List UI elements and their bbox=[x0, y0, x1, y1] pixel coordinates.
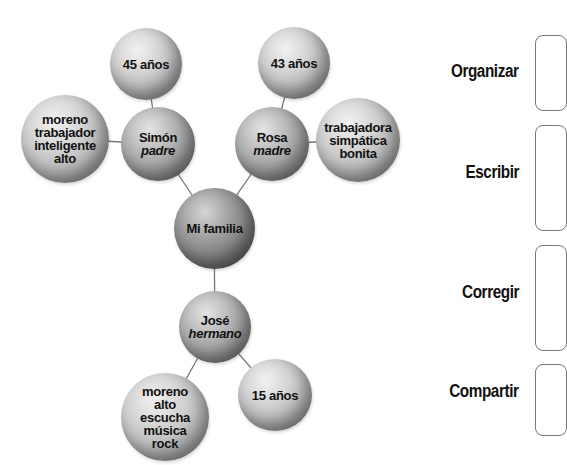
mother-relation: madre bbox=[253, 144, 291, 157]
step-organizar-box[interactable] bbox=[535, 35, 567, 111]
mother-bubble: Rosa madre bbox=[235, 107, 309, 181]
center-bubble: Mi familia bbox=[174, 188, 255, 269]
father-age-text: 45 años bbox=[123, 58, 169, 71]
trait-text: moreno bbox=[142, 385, 188, 398]
step-corregir-label: Corregir bbox=[462, 282, 519, 303]
step-escribir-label: Escribir bbox=[465, 162, 519, 183]
brother-relation: hermano bbox=[189, 327, 242, 340]
step-organizar-label: Organizar bbox=[451, 61, 519, 82]
trait-text: escucha bbox=[140, 411, 190, 424]
trait-text: música bbox=[143, 424, 186, 437]
brother-age-bubble: 15 años bbox=[238, 359, 312, 431]
father-bubble: Simón padre bbox=[121, 107, 195, 181]
trait-text: alto bbox=[54, 152, 76, 165]
step-corregir-box[interactable] bbox=[535, 245, 567, 351]
trait-text: bonita bbox=[339, 147, 376, 160]
mother-age-bubble: 43 años bbox=[258, 27, 330, 99]
brother-age-text: 15 años bbox=[252, 389, 298, 402]
father-age-bubble: 45 años bbox=[110, 28, 182, 100]
trait-text: simpática bbox=[329, 134, 386, 147]
trait-text: trabajadora bbox=[324, 121, 392, 134]
step-escribir-box[interactable] bbox=[535, 125, 567, 231]
mother-age-text: 43 años bbox=[271, 57, 317, 70]
center-label: Mi familia bbox=[186, 222, 242, 235]
father-relation: padre bbox=[141, 144, 175, 157]
trait-text: rock bbox=[152, 437, 178, 450]
brother-bubble: José hermano bbox=[179, 291, 251, 363]
step-compartir-label: Compartir bbox=[450, 381, 519, 402]
trait-text: alto bbox=[154, 398, 176, 411]
step-compartir-box[interactable] bbox=[535, 364, 567, 436]
brother-traits-bubble: moreno alto escucha música rock bbox=[121, 373, 209, 461]
father-traits-bubble: moreno trabajador inteligente alto bbox=[21, 95, 109, 183]
mother-traits-bubble: trabajadora simpática bonita bbox=[316, 98, 400, 182]
